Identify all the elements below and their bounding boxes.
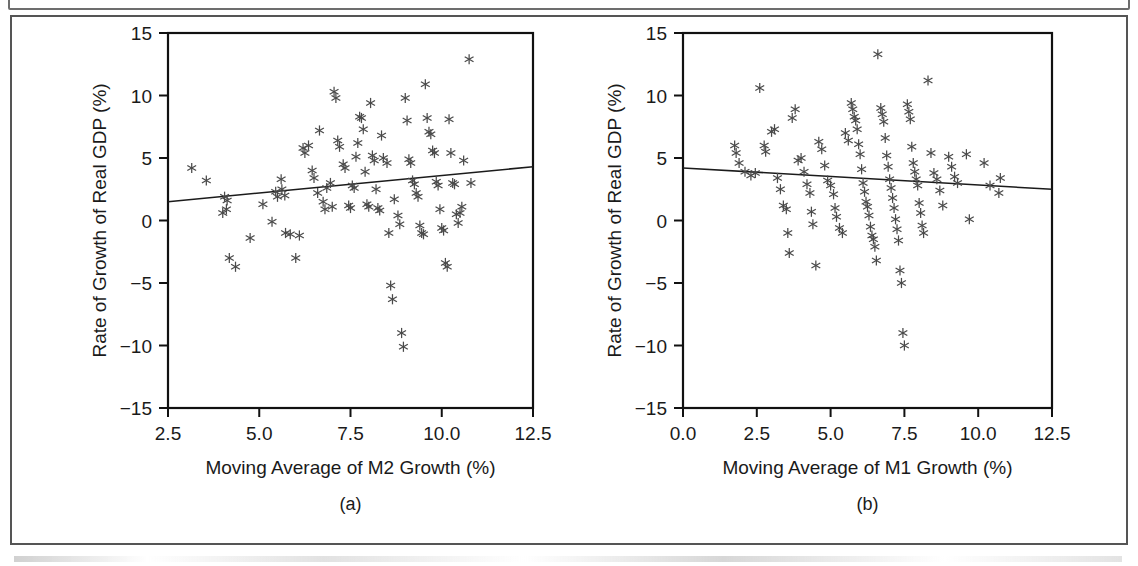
scatter-point-marker <box>372 184 381 194</box>
scatter-point-marker <box>258 199 267 209</box>
x-tick-label: 2.5 <box>744 423 770 444</box>
y-tick-label: 0 <box>141 211 152 232</box>
scatter-point-marker <box>313 188 322 198</box>
scatter-point-marker <box>912 174 921 184</box>
scatter-point-marker <box>467 178 476 188</box>
scatter-point-marker <box>291 253 300 263</box>
scatter-point-marker <box>927 148 936 158</box>
scatter-plot-b: 151050−5−10−150.02.55.07.510.012.5Moving… <box>570 15 1128 545</box>
scatter-point-marker <box>788 113 797 123</box>
scatter-point-marker <box>944 152 953 162</box>
scatter-point-marker <box>366 98 375 108</box>
x-axis-title: Moving Average of M1 Growth (%) <box>722 457 1012 478</box>
y-axis-title: Rate of Growth of Real GDP (%) <box>89 83 110 357</box>
scatter-point-marker <box>890 203 899 213</box>
scatter-point-marker <box>361 167 370 177</box>
scatter-point-marker <box>352 152 361 162</box>
scatter-point-marker <box>900 340 909 350</box>
scatter-plot-a: 151050−5−10−152.55.07.510.012.5Moving Av… <box>10 15 570 545</box>
scatter-point-marker <box>445 114 454 124</box>
scatter-point-marker <box>401 93 410 103</box>
scatter-point-marker <box>848 104 857 114</box>
scatter-point-marker <box>732 148 741 158</box>
figure-page: 151050−5−10−152.55.07.510.012.5Moving Av… <box>0 0 1138 566</box>
scatter-point-marker <box>856 149 865 159</box>
scatter-point-marker <box>860 187 869 197</box>
scatter-point-marker <box>808 219 817 229</box>
scatter-point-marker <box>924 75 933 85</box>
scatter-point-marker <box>231 262 240 272</box>
x-tick-label: 2.5 <box>155 423 181 444</box>
scatter-point-marker <box>315 125 324 135</box>
scatter-point-marker <box>907 142 916 152</box>
scatter-point-marker <box>277 174 286 184</box>
scatter-point-marker <box>935 185 944 195</box>
scatter-point-marker <box>893 224 902 234</box>
scatter-point-marker <box>465 54 474 64</box>
scatter-point-marker <box>854 139 863 149</box>
scatter-point-marker <box>865 210 874 220</box>
scatter-point-marker <box>873 49 882 59</box>
scatter-point-marker <box>872 255 881 265</box>
scatter-point-marker <box>904 107 913 117</box>
scatter-point-marker <box>459 155 468 165</box>
scatter-point-marker <box>916 208 925 218</box>
scatter-point-marker <box>894 235 903 245</box>
scatter-point-marker <box>965 214 974 224</box>
scatter-point-marker <box>246 233 255 243</box>
scatter-point-marker <box>308 165 317 175</box>
scatter-point-marker <box>879 117 888 127</box>
scatter-point-marker <box>910 167 919 177</box>
x-tick-label: 12.5 <box>515 423 552 444</box>
scatter-point-marker <box>359 124 368 134</box>
scatter-point-marker <box>785 248 794 258</box>
x-tick-label: 12.5 <box>1034 423 1071 444</box>
y-tick-label: 5 <box>656 148 667 169</box>
scatter-point-marker <box>832 212 841 222</box>
x-tick-label: 7.5 <box>337 423 363 444</box>
y-tick-label: −15 <box>635 398 667 419</box>
scatter-point-marker <box>457 202 466 212</box>
scatter-point-marker <box>869 234 878 244</box>
scatter-point-marker <box>899 328 908 338</box>
y-tick-label: −10 <box>120 336 152 357</box>
scatter-points <box>187 54 475 352</box>
scatter-point-marker <box>881 133 890 143</box>
y-tick-label: −5 <box>645 273 667 294</box>
x-tick-label: 10.0 <box>960 423 997 444</box>
scatter-point-marker <box>390 194 399 204</box>
x-tick-label: 5.0 <box>817 423 843 444</box>
scatter-point-marker <box>896 265 905 275</box>
scatter-point-marker <box>887 183 896 193</box>
y-tick-label: −10 <box>635 336 667 357</box>
panel-b: 151050−5−10−150.02.55.07.510.012.5Moving… <box>570 15 1128 545</box>
scatter-point-marker <box>962 149 971 159</box>
scatter-point-marker <box>807 207 816 217</box>
y-tick-label: 5 <box>141 148 152 169</box>
adjacent-box-artifact <box>8 0 1130 10</box>
scatter-point-marker <box>187 163 196 173</box>
scatter-point-marker <box>915 198 924 208</box>
scatter-point-marker <box>377 130 386 140</box>
scatter-point-marker <box>330 87 339 97</box>
scatter-point-marker <box>876 103 885 113</box>
panel-caption: (b) <box>857 494 879 514</box>
y-tick-label: 10 <box>131 86 152 107</box>
scatter-point-marker <box>268 217 277 227</box>
scatter-point-marker <box>386 280 395 290</box>
scatter-point-marker <box>996 173 1005 183</box>
x-axis-title: Moving Average of M2 Growth (%) <box>205 457 495 478</box>
scatter-point-marker <box>436 204 445 214</box>
scatter-point-marker <box>857 164 866 174</box>
scan-smudge-artifact <box>14 556 1122 562</box>
scatter-point-marker <box>761 147 770 157</box>
scatter-point-marker <box>903 99 912 109</box>
scatter-point-marker <box>847 98 856 108</box>
scatter-point-marker <box>947 162 956 172</box>
scatter-point-marker <box>399 342 408 352</box>
scatter-point-marker <box>938 200 947 210</box>
scatter-point-marker <box>776 184 785 194</box>
panel-caption: (a) <box>340 494 362 514</box>
scatter-point-marker <box>395 219 404 229</box>
scatter-point-marker <box>730 140 739 150</box>
